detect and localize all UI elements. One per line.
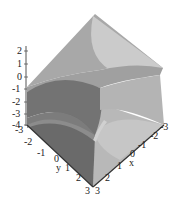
surface-plot: 2 1 0 -1 -2 -3 -4 -3: [0, 0, 182, 197]
z-axis: 2 1 0 -1 -2 -3 -4: [12, 45, 28, 130]
y-axis-label: y: [56, 162, 61, 173]
x-tick-3: 3: [95, 185, 100, 196]
z-tick-neg3: -3: [12, 108, 20, 119]
z-tick-1: 1: [17, 58, 22, 69]
x-tick-neg2: -2: [150, 130, 158, 141]
y-tick-neg3: -3: [15, 124, 23, 135]
x-tick-1: 1: [117, 160, 122, 171]
surfaces: [27, 14, 164, 187]
y-tick-3: 3: [85, 185, 90, 196]
z-tick-neg1: -1: [12, 83, 20, 94]
x-tick-0: 0: [130, 148, 135, 159]
y-tick-1: 1: [65, 162, 70, 173]
x-tick-neg1: -1: [138, 139, 146, 150]
y-tick-2: 2: [76, 172, 81, 183]
x-tick-neg3: -3: [160, 121, 168, 132]
y-tick-neg2: -2: [24, 136, 32, 147]
x-tick-2: 2: [105, 172, 110, 183]
y-tick-neg1: -1: [37, 147, 45, 158]
z-tick-neg2: -2: [12, 96, 20, 107]
z-tick-2: 2: [17, 45, 22, 56]
z-tick-0: 0: [17, 71, 22, 82]
